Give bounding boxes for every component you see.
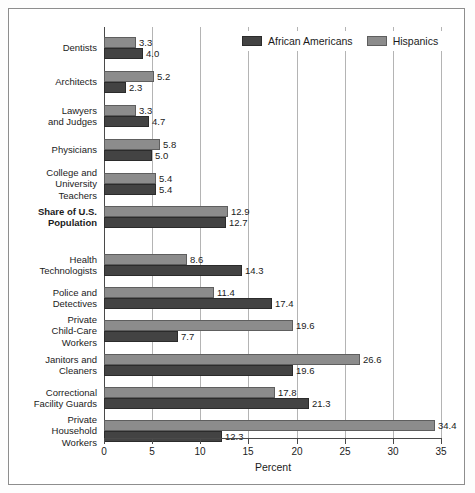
x-tick-label-5: 5 [137, 446, 167, 458]
chart-figure: Dentists3.34.0Architects5.22.3Lawyers an… [0, 0, 475, 493]
bar-group: Janitors and Cleaners26.619.6 [104, 354, 441, 376]
bar-group: Architects5.22.3 [104, 71, 441, 93]
bar-value-label: 4.7 [152, 116, 165, 127]
x-tick-label-25: 25 [330, 446, 360, 458]
bar-group: Physicians5.85.0 [104, 139, 441, 161]
bar-hispanics [104, 420, 435, 431]
category-label: College and University Teachers [0, 167, 97, 202]
bar-group: Police and Detectives11.417.4 [104, 287, 441, 309]
legend-item-hispanics: Hispanics [367, 35, 439, 47]
legend-item-african-americans: African Americans [242, 35, 353, 47]
bar-value-label: 12.9 [231, 206, 250, 217]
x-tick-15 [248, 438, 249, 444]
bar-african-americans [104, 265, 242, 276]
bar-african-americans [104, 365, 293, 376]
bar-value-label: 3.3 [139, 37, 152, 48]
chart-legend: African Americans Hispanics [239, 31, 455, 51]
category-label: Lawyers and Judges [0, 105, 97, 128]
x-tick-0 [104, 438, 105, 444]
bar-african-americans [104, 331, 178, 342]
bar-hispanics [104, 354, 360, 365]
x-axis-line [104, 438, 442, 439]
bar-value-label: 19.6 [296, 320, 315, 331]
bar-group: Share of U.S. Population12.912.7 [104, 206, 441, 228]
bar-value-label: 19.6 [296, 365, 315, 376]
bar-hispanics [104, 287, 214, 298]
legend-label-african-americans: African Americans [268, 35, 353, 47]
x-tick-5 [152, 438, 153, 444]
bar-value-label: 3.3 [139, 105, 152, 116]
x-tick-label-10: 10 [185, 446, 215, 458]
bar-value-label: 4.0 [146, 48, 159, 59]
bar-african-americans [104, 150, 152, 161]
bar-group: College and University Teachers5.45.4 [104, 173, 441, 195]
x-tick-label-30: 30 [378, 446, 408, 458]
x-tick-25 [345, 438, 346, 444]
category-label: Dentists [0, 42, 97, 54]
legend-label-hispanics: Hispanics [393, 35, 439, 47]
x-tick-label-0: 0 [89, 446, 119, 458]
bar-hispanics [104, 173, 156, 184]
bar-value-label: 17.4 [275, 298, 294, 309]
x-tick-35 [441, 438, 442, 444]
bar-value-label: 17.8 [278, 387, 297, 398]
category-label: Correctional Facility Guards [0, 387, 97, 410]
category-label: Janitors and Cleaners [0, 354, 97, 377]
bar-value-label: 7.7 [181, 331, 194, 342]
bar-african-americans [104, 298, 272, 309]
x-axis-label: Percent [104, 461, 442, 473]
gridline-35 [441, 27, 442, 438]
category-label: Police and Detectives [0, 287, 97, 310]
bar-hispanics [104, 139, 160, 150]
category-label: Private Child-Care Workers [0, 314, 97, 349]
x-tick-10 [200, 438, 201, 444]
bar-group: Private Child-Care Workers19.67.7 [104, 320, 441, 342]
bar-value-label: 12.7 [229, 217, 248, 228]
bar-value-label: 5.4 [159, 184, 172, 195]
legend-swatch-hispanics [367, 36, 387, 46]
bar-african-americans [104, 82, 126, 93]
bar-african-americans [104, 431, 222, 442]
bar-value-label: 5.8 [163, 139, 176, 150]
bar-hispanics [104, 254, 187, 265]
bar-value-label: 14.3 [245, 265, 264, 276]
x-tick-20 [297, 438, 298, 444]
category-label: Physicians [0, 144, 97, 156]
bar-value-label: 5.4 [159, 173, 172, 184]
bar-hispanics [104, 37, 136, 48]
bar-hispanics [104, 71, 154, 82]
bar-hispanics [104, 387, 275, 398]
bar-value-label: 12.3 [225, 431, 244, 442]
bar-value-label: 34.4 [438, 420, 457, 431]
bar-african-americans [104, 184, 156, 195]
category-label: Health Technologists [0, 254, 97, 277]
x-tick-label-35: 35 [426, 446, 456, 458]
bar-hispanics [104, 206, 228, 217]
bar-group: Correctional Facility Guards17.821.3 [104, 387, 441, 409]
bar-value-label: 11.4 [217, 287, 235, 298]
category-label: Architects [0, 76, 97, 88]
category-label: Share of U.S. Population [0, 206, 97, 229]
bar-value-label: 2.3 [129, 82, 142, 93]
bar-african-americans [104, 116, 149, 127]
category-label: Private Household Workers [0, 414, 97, 449]
bar-african-americans [104, 398, 309, 409]
bar-african-americans [104, 48, 143, 59]
bar-value-label: 26.6 [363, 354, 382, 365]
bar-african-americans [104, 217, 226, 228]
bar-value-label: 8.6 [190, 254, 203, 265]
bar-group: Health Technologists8.614.3 [104, 254, 441, 276]
bar-group: Lawyers and Judges3.34.7 [104, 105, 441, 127]
bar-value-label: 5.2 [157, 71, 170, 82]
chart-frame: Dentists3.34.0Architects5.22.3Lawyers an… [8, 8, 465, 485]
x-tick-label-20: 20 [282, 446, 312, 458]
x-tick-label-15: 15 [233, 446, 263, 458]
plot-area: Dentists3.34.0Architects5.22.3Lawyers an… [104, 27, 441, 438]
bar-value-label: 21.3 [312, 398, 331, 409]
bar-value-label: 5.0 [155, 150, 168, 161]
bar-hispanics [104, 105, 136, 116]
bar-hispanics [104, 320, 293, 331]
x-tick-30 [393, 438, 394, 444]
legend-swatch-african-americans [242, 36, 262, 46]
